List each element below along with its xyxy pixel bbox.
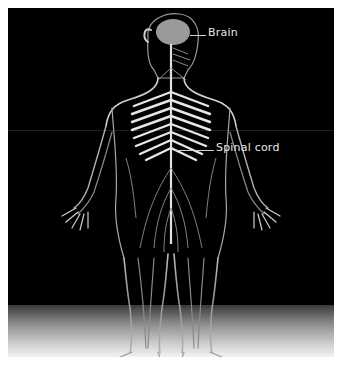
brain-shape: [156, 19, 190, 45]
illustration-frame: Brain Spinal cord: [8, 8, 334, 357]
brain-label: Brain: [208, 26, 238, 39]
nervous-system-figure: [8, 8, 334, 357]
brain-leader-line: [190, 35, 206, 36]
spinal-cord-leader-line: [174, 150, 214, 151]
spinal-cord-label: Spinal cord: [216, 141, 280, 154]
